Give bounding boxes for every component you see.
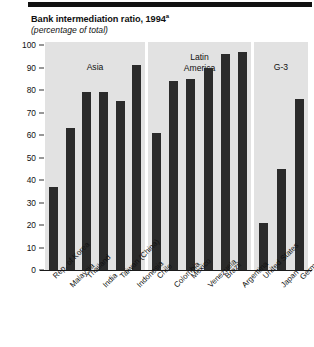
- bar: [132, 65, 141, 270]
- y-axis-tick-mark: [39, 157, 44, 158]
- y-axis-tick-label: 80: [14, 85, 36, 95]
- y-axis-tick-label: 10: [14, 243, 36, 253]
- y-axis-tick-mark: [39, 202, 44, 203]
- y-axis-tick-label: 70: [14, 108, 36, 118]
- bar: [204, 68, 213, 271]
- bar: [49, 187, 58, 270]
- panel-title-latin-america-line1: Latin: [148, 52, 251, 63]
- y-axis-tick-mark: [39, 180, 44, 181]
- bar: [66, 128, 75, 270]
- chart-figure: Bank intermediation ratio, 1994a (percen…: [0, 0, 314, 347]
- panel-title-latin-america-line2: America: [148, 63, 251, 74]
- y-axis-tick-label: 50: [14, 153, 36, 163]
- y-axis-tick-mark: [39, 135, 44, 136]
- panel-asia: [45, 42, 145, 270]
- bar: [116, 101, 125, 270]
- plot-area: Asia Latin America G-3 01020304050607080…: [0, 0, 314, 347]
- panel-latin-america: [148, 42, 251, 270]
- panel-title-latin-america: Latin America: [148, 52, 251, 74]
- panel-title-g3: G-3: [254, 62, 308, 72]
- y-axis-tick-mark: [39, 225, 44, 226]
- panel-title-asia: Asia: [45, 62, 145, 72]
- bar: [99, 92, 108, 270]
- y-axis-tick-mark: [39, 112, 44, 113]
- y-axis-tick-mark: [39, 247, 44, 248]
- y-axis-tick-mark: [39, 45, 44, 46]
- y-axis-tick-label: 60: [14, 130, 36, 140]
- y-axis-tick-mark: [39, 90, 44, 91]
- bar: [186, 79, 195, 270]
- y-axis-tick-label: 30: [14, 198, 36, 208]
- bar: [238, 52, 247, 270]
- bar: [169, 81, 178, 270]
- y-axis-tick-label: 20: [14, 220, 36, 230]
- y-axis-tick-mark: [39, 67, 44, 68]
- bar: [221, 54, 230, 270]
- y-axis-tick-label: 100: [14, 40, 36, 50]
- y-axis-tick-label: 90: [14, 63, 36, 73]
- y-axis-tick-label: 0: [14, 265, 36, 275]
- y-axis-tick-label: 40: [14, 175, 36, 185]
